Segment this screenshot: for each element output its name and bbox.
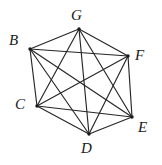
graph-vertex-dot-f — [126, 54, 129, 57]
graph-edge-bd — [30, 49, 89, 134]
vertex-label-f: F — [135, 48, 144, 63]
graph-vertex-dot-g — [77, 27, 80, 30]
graph-edge-bg — [30, 29, 79, 49]
graph-edge-fg — [79, 29, 128, 56]
graph-edge-df — [89, 56, 128, 134]
graph-edge-cd — [37, 106, 89, 134]
graph-vertex-dot-d — [87, 132, 90, 135]
vertex-label-g: G — [71, 8, 82, 23]
vertex-label-b: B — [9, 33, 18, 48]
graph-vertex-dot-b — [28, 47, 31, 50]
graph-edge-bf — [30, 49, 128, 56]
vertex-label-d: D — [81, 141, 92, 156]
vertex-label-c: C — [15, 97, 25, 112]
graph-vertex-dot-e — [130, 115, 133, 118]
graph-edge-ef — [128, 56, 132, 117]
graph-vertex-dot-c — [35, 104, 38, 107]
graph-edge-de — [89, 117, 132, 134]
edge-layer — [30, 29, 132, 134]
graph-diagram: GBFCED — [0, 0, 162, 165]
vertex-label-e: E — [138, 120, 147, 135]
graph-edge-eg — [79, 29, 132, 117]
